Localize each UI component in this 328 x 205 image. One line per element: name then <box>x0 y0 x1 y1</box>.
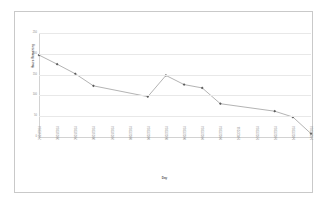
data-point-marker <box>56 63 59 66</box>
y-axis-tick-label: 0 <box>17 136 37 139</box>
x-axis-tick-label: 04/02/2014 <box>149 127 152 140</box>
gridline <box>39 116 311 117</box>
x-axis-tick-label: 29/01/2014 <box>76 127 79 140</box>
x-axis-tick-labels: 27/01/201428/01/201429/01/201430/01/2014… <box>39 140 311 174</box>
x-axis-tick-label: 05/02/2014 <box>167 127 170 140</box>
gridline <box>39 95 311 96</box>
gridline <box>39 75 311 76</box>
x-axis-tick-label: 30/01/2014 <box>94 127 97 140</box>
data-point-marker <box>273 110 276 113</box>
x-axis-tick-label: 28/01/2014 <box>58 127 61 140</box>
y-axis-tick-label: 200 <box>17 53 37 56</box>
chart-frame: Hours Remaining 050100150200250 27/01/20… <box>14 11 313 193</box>
data-series-line <box>39 33 311 137</box>
y-axis-tick-label: 100 <box>17 94 37 97</box>
gridline <box>39 54 311 55</box>
y-axis-tick-label: 250 <box>17 32 37 35</box>
x-axis-tick-label: 27/01/2014 <box>40 127 43 140</box>
x-axis-tick-label: 13/02/2014 <box>276 127 279 140</box>
plot-area <box>39 33 311 137</box>
x-axis-tick-label: 12/02/2014 <box>258 127 261 140</box>
x-axis-tick-label: 17/02/2014 <box>312 127 315 140</box>
series-line <box>39 55 311 134</box>
x-axis-tick-label: 06/02/2014 <box>185 127 188 140</box>
x-axis-tick-label: 07/02/2014 <box>203 127 206 140</box>
y-axis-tick-labels: 050100150200250 <box>15 33 37 137</box>
y-axis-tick-label: 50 <box>17 115 37 118</box>
x-axis-title: Day <box>15 176 314 180</box>
y-axis-tick-label: 150 <box>17 73 37 76</box>
x-axis-tick-label: 31/01/2014 <box>113 127 116 140</box>
x-axis-tick-label: 14/02/2014 <box>294 127 297 140</box>
x-axis-tick-label: 10/02/2014 <box>221 127 224 140</box>
gridline <box>39 33 311 34</box>
x-axis-tick-label: 03/02/2014 <box>131 127 134 140</box>
data-point-marker <box>183 83 186 86</box>
